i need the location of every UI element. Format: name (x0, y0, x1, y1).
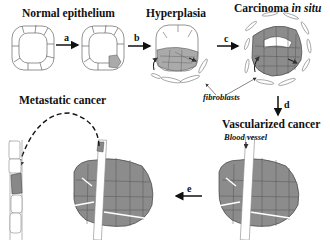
step-label-d: d (284, 99, 290, 110)
mutated-cell (109, 55, 121, 68)
step-label-b: b (134, 32, 140, 43)
metastatic-cell (11, 173, 22, 194)
vascularized-tumor (218, 158, 299, 227)
step-label-e: e (187, 183, 191, 194)
hyperplasia-structure (156, 25, 198, 72)
label-carcinoma-text: Carcinoma (234, 2, 292, 14)
label-carcinoma-in-situ: Carcinoma in situ (234, 2, 321, 14)
normal-epithelium-ring (12, 25, 54, 70)
step-label-c: c (224, 33, 228, 44)
metastasis-path (18, 113, 99, 168)
label-metastatic-cancer: Metastatic cancer (19, 94, 106, 106)
metastasis-primary-tumor (72, 158, 153, 227)
label-vascularized-cancer: Vascularized cancer (222, 118, 320, 130)
label-fibroblasts: fibroblasts (203, 92, 240, 102)
carcinoma-in-situ-mass (252, 26, 302, 76)
label-blood-vessel: Blood vessel (224, 132, 267, 142)
label-in-situ-text: in situ (292, 2, 322, 14)
step-label-a: a (64, 32, 69, 43)
label-normal-epithelium: Normal epithelium (22, 7, 115, 19)
label-hyperplasia: Hyperplasia (146, 7, 206, 19)
